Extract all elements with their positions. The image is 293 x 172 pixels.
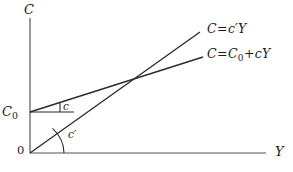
axis-label-y: Y (275, 145, 284, 158)
eq1-lhs: C (207, 21, 217, 36)
equation-label-line1: C=c′Y (207, 23, 246, 36)
slope-label-c-prime: c′ (68, 129, 76, 140)
origin-label: 0 (17, 145, 24, 157)
eq1-equals: = (217, 21, 228, 36)
line-c-prime-y (30, 32, 200, 153)
intercept-label-c0: C0 (2, 105, 18, 120)
eq2-intercept-base: C (228, 46, 238, 61)
figure-canvas (0, 0, 293, 172)
eq2-equals: = (217, 46, 228, 61)
equation-label-line2: C=C0+cY (207, 48, 270, 63)
eq2-coefficient: c (255, 46, 262, 61)
line-c0-plus-cy (30, 57, 203, 112)
eq2-lhs: C (207, 46, 217, 61)
consumption-function-figure: C Y C0 0 c c′ C=c′Y C=C0+cY (0, 0, 293, 172)
slope-label-c: c (63, 101, 69, 112)
intercept-subscript: 0 (12, 110, 18, 121)
eq2-variable: Y (262, 46, 270, 61)
intercept-base: C (2, 104, 12, 119)
eq1-variable: Y (238, 21, 246, 36)
eq1-coefficient: c′ (228, 21, 238, 36)
eq2-plus: + (243, 46, 254, 61)
axis-label-c: C (24, 3, 34, 16)
